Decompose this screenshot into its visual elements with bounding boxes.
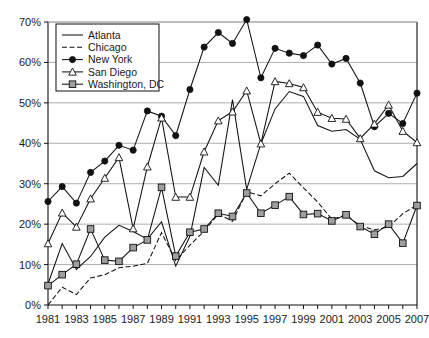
data-point-square: [343, 212, 350, 219]
data-point-square: [73, 261, 80, 268]
data-point-circle: [300, 52, 306, 58]
y-tick-label-0%: 0%: [25, 299, 41, 311]
data-point-square: [229, 213, 236, 220]
data-point-circle: [144, 108, 150, 114]
data-point-square: [286, 193, 293, 200]
data-point-triangle: [129, 225, 137, 232]
legend-label: Chicago: [88, 41, 127, 53]
data-point-square: [215, 210, 222, 217]
data-point-square: [357, 223, 364, 230]
y-tick-label-60%: 60%: [19, 56, 41, 68]
x-tick-label-2005: 2005: [376, 313, 400, 325]
y-tick-label-30%: 30%: [19, 178, 41, 190]
legend-marker-square: [69, 81, 76, 88]
y-tick-label-40%: 40%: [19, 137, 41, 149]
series-washington-dc: [45, 184, 421, 289]
data-point-circle: [329, 61, 335, 67]
data-point-triangle: [200, 148, 208, 155]
data-point-square: [243, 190, 250, 197]
data-point-triangle: [44, 240, 52, 247]
data-point-circle: [286, 50, 292, 56]
data-point-circle: [414, 90, 420, 96]
data-point-square: [172, 253, 179, 260]
data-point-square: [130, 244, 137, 251]
data-point-circle: [187, 86, 193, 92]
x-tick-label-1985: 1985: [93, 313, 117, 325]
data-point-circle: [73, 200, 79, 206]
data-point-square: [329, 218, 336, 225]
data-point-circle: [59, 183, 65, 189]
data-point-circle: [201, 44, 207, 50]
data-point-circle: [45, 198, 51, 204]
data-point-square: [414, 202, 421, 209]
data-point-square: [371, 231, 378, 238]
data-point-triangle: [271, 78, 279, 85]
x-tick-label-1989: 1989: [149, 313, 173, 325]
data-point-circle: [272, 45, 278, 51]
data-point-triangle: [115, 154, 123, 161]
data-point-square: [158, 184, 165, 191]
data-point-square: [272, 202, 279, 209]
data-point-triangle: [215, 117, 223, 124]
data-point-square: [314, 210, 321, 217]
y-axis-tick-labels: 0%10%20%30%40%50%60%70%: [19, 16, 41, 311]
data-point-circle: [258, 75, 264, 81]
data-point-circle: [357, 80, 363, 86]
data-point-square: [87, 226, 94, 233]
data-point-circle: [102, 158, 108, 164]
line-chart: 0%10%20%30%40%50%60%70% 1981198319851987…: [0, 0, 429, 338]
legend-label: New York: [88, 53, 133, 65]
legend-marker-circle: [69, 57, 75, 63]
x-tick-label-2007: 2007: [405, 313, 429, 325]
data-point-triangle: [314, 108, 322, 115]
x-tick-label-1997: 1997: [263, 313, 287, 325]
data-point-circle: [315, 42, 321, 48]
data-point-circle: [116, 142, 122, 148]
data-point-triangle: [144, 163, 152, 170]
y-tick-label-50%: 50%: [19, 97, 41, 109]
x-tick-label-1983: 1983: [64, 313, 88, 325]
data-point-triangle: [229, 108, 237, 115]
x-tick-label-1999: 1999: [291, 313, 315, 325]
legend-label: San Diego: [88, 66, 137, 78]
x-axis-tick-labels: 1981198319851987198919911993199519971999…: [36, 313, 429, 325]
data-point-circle: [229, 40, 235, 46]
series-atlanta: [48, 92, 417, 284]
chart-container: 0%10%20%30%40%50%60%70% 1981198319851987…: [0, 0, 429, 338]
data-point-square: [400, 240, 407, 247]
data-point-triangle: [101, 174, 109, 181]
legend-label: Washington, DC: [88, 78, 164, 90]
data-point-square: [300, 211, 307, 218]
data-point-square: [144, 237, 151, 244]
data-point-circle: [173, 133, 179, 139]
x-tick-label-1995: 1995: [234, 313, 258, 325]
data-point-circle: [215, 29, 221, 35]
data-point-square: [45, 282, 52, 289]
data-point-circle: [130, 147, 136, 153]
data-point-triangle: [58, 209, 66, 216]
data-point-circle: [400, 120, 406, 126]
x-tick-label-2003: 2003: [348, 313, 372, 325]
data-point-square: [258, 210, 265, 217]
x-tick-label-1991: 1991: [178, 313, 202, 325]
x-tick-label-1981: 1981: [36, 313, 60, 325]
data-point-square: [59, 271, 66, 278]
chart-legend: AtlantaChicagoNew YorkSan DiegoWashingto…: [56, 24, 164, 91]
data-point-triangle: [87, 195, 95, 202]
x-tick-label-2001: 2001: [320, 313, 344, 325]
data-point-square: [116, 258, 123, 265]
x-tick-label-1987: 1987: [121, 313, 145, 325]
data-point-triangle: [385, 101, 393, 108]
data-point-circle: [386, 110, 392, 116]
data-point-circle: [343, 55, 349, 61]
data-point-triangle: [243, 87, 251, 94]
y-tick-label-20%: 20%: [19, 218, 41, 230]
data-point-circle: [87, 169, 93, 175]
data-point-square: [385, 221, 392, 228]
y-tick-label-70%: 70%: [19, 16, 41, 28]
data-point-square: [101, 257, 108, 264]
data-point-square: [187, 229, 194, 236]
data-point-circle: [244, 16, 250, 22]
data-point-triangle: [399, 127, 407, 134]
y-tick-label-10%: 10%: [19, 259, 41, 271]
